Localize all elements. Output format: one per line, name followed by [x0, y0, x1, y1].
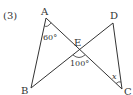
angle-label-A: 60°	[43, 33, 57, 42]
point-label-D: D	[110, 10, 118, 21]
point-label-B: B	[21, 85, 28, 95]
angle-arc-C	[116, 82, 121, 84]
problem-number: (3)	[3, 10, 17, 21]
geometry-figure: (3) A D E B C 60° 100° x	[0, 0, 133, 95]
figure-svg: (3) A D E B C 60° 100° x	[0, 0, 133, 95]
point-label-A: A	[40, 6, 49, 17]
angle-label-E: 100°	[70, 59, 89, 68]
point-label-C: C	[124, 86, 132, 95]
angle-arc-A	[44, 23, 51, 27]
segment-AC	[46, 18, 122, 89]
angle-arc-E	[73, 55, 85, 58]
angle-label-C: x	[112, 72, 117, 81]
point-label-E: E	[74, 37, 81, 48]
